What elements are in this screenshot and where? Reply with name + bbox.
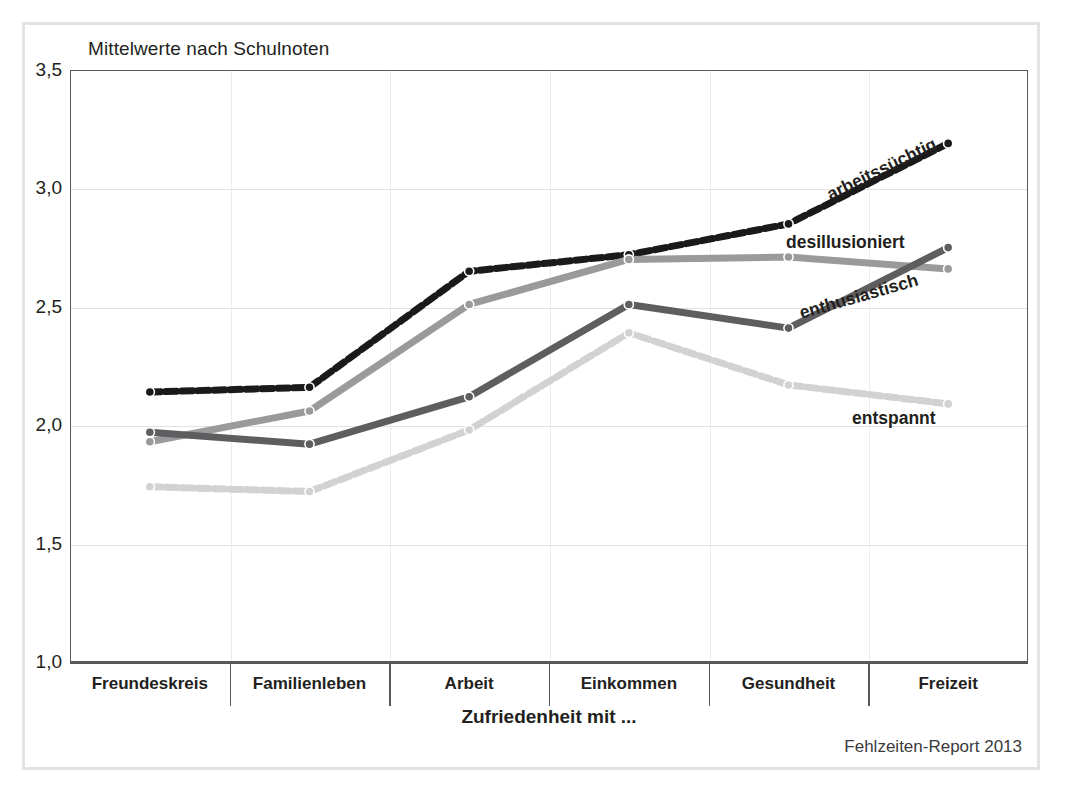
y-tick-label: 3,0 bbox=[16, 177, 62, 199]
gridline-vertical bbox=[390, 71, 391, 661]
y-tick-label: 1,5 bbox=[16, 533, 62, 555]
x-category-label: Gesundheit bbox=[709, 662, 869, 706]
x-axis-categories: FreundeskreisFamilienlebenArbeitEinkomme… bbox=[70, 662, 1028, 706]
gridline-vertical bbox=[869, 71, 870, 661]
x-category-label: Arbeit bbox=[389, 662, 549, 706]
x-category-label: Einkommen bbox=[549, 662, 709, 706]
source-note: Fehlzeiten-Report 2013 bbox=[844, 737, 1022, 757]
chart-title: Mittelwerte nach Schulnoten bbox=[88, 38, 329, 60]
gridline-horizontal bbox=[71, 308, 1027, 309]
x-axis-title: Zufriedenheit mit ... bbox=[70, 706, 1028, 728]
x-category-label: Freizeit bbox=[868, 662, 1028, 706]
x-category-label: Familienleben bbox=[230, 662, 390, 706]
gridline-horizontal bbox=[71, 545, 1027, 546]
gridline-vertical bbox=[710, 71, 711, 661]
y-tick-label: 2,0 bbox=[16, 414, 62, 436]
gridline-vertical bbox=[231, 71, 232, 661]
y-tick-label: 2,5 bbox=[16, 296, 62, 318]
x-category-label: Freundeskreis bbox=[70, 662, 230, 706]
chart-figure: Mittelwerte nach Schulnoten 1,01,52,02,5… bbox=[0, 0, 1066, 793]
series-label: desillusioniert bbox=[786, 232, 905, 253]
series-label: entspannt bbox=[852, 408, 936, 429]
y-tick-label: 3,5 bbox=[16, 59, 62, 81]
gridline-vertical bbox=[550, 71, 551, 661]
y-axis-ticks: 1,01,52,02,53,03,5 bbox=[8, 70, 62, 662]
y-tick-label: 1,0 bbox=[16, 651, 62, 673]
gridline-horizontal bbox=[71, 189, 1027, 190]
